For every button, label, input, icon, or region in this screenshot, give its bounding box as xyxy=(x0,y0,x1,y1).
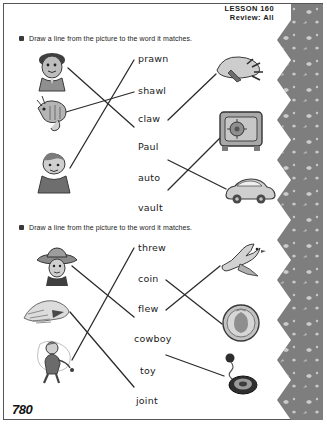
hand-joint-picture[interactable] xyxy=(22,292,72,328)
match-line-toy xyxy=(166,355,224,376)
word-coin[interactable]: coin xyxy=(138,273,159,284)
instruction-row-1: Draw a line from the picture to the word… xyxy=(19,35,192,42)
word-joint[interactable]: joint xyxy=(136,395,158,406)
bird-flew-picture[interactable] xyxy=(216,242,268,286)
word-threw[interactable]: threw xyxy=(138,242,166,253)
square-bullet-icon xyxy=(19,36,24,41)
auto-car-picture[interactable] xyxy=(222,174,276,204)
worksheet-page: LESSON 160 Review: All Draw a line from … xyxy=(0,0,327,424)
instruction-text-2: Draw a line from the picture to the word… xyxy=(29,224,192,231)
prawn-picture[interactable] xyxy=(32,94,72,132)
match-line-claw xyxy=(168,74,216,120)
claw-picture[interactable] xyxy=(213,52,269,86)
word-flew[interactable]: flew xyxy=(138,303,158,314)
word-toy[interactable]: toy xyxy=(140,365,156,376)
yoyo-toy-picture[interactable] xyxy=(220,352,266,396)
boy-face-picture[interactable] xyxy=(30,50,74,92)
thrower-picture[interactable] xyxy=(32,338,80,384)
word-claw[interactable]: claw xyxy=(138,113,160,124)
lesson-header: LESSON 160 Review: All xyxy=(225,4,274,23)
child-shawl-picture[interactable] xyxy=(34,150,74,194)
match-line-vault xyxy=(168,136,222,190)
match-line-cowboy xyxy=(72,266,134,317)
match-line-prawn-shawl xyxy=(66,92,134,112)
exercise-2: threw coin flew cowboy toy joint xyxy=(8,240,278,395)
instruction-text-1: Draw a line from the picture to the word… xyxy=(29,35,192,42)
decorative-zigzag-band xyxy=(277,4,323,420)
word-shawl[interactable]: shawl xyxy=(138,85,166,96)
coin-picture[interactable] xyxy=(220,302,262,344)
cowboy-picture[interactable] xyxy=(34,244,80,286)
exercise-1: prawn shawl claw Paul auto vault xyxy=(8,50,278,205)
word-prawn[interactable]: prawn xyxy=(138,53,169,64)
lesson-number-label: LESSON 160 xyxy=(225,4,274,13)
match-line-threw xyxy=(72,248,134,360)
match-line-auto xyxy=(168,160,226,189)
word-paul[interactable]: Paul xyxy=(138,141,159,152)
lesson-review-label: Review: All xyxy=(225,13,274,22)
match-line-child-prawn xyxy=(70,60,134,168)
vault-picture[interactable] xyxy=(216,108,266,152)
page-number: 780 xyxy=(12,402,32,417)
word-vault[interactable]: vault xyxy=(138,202,163,213)
word-cowboy[interactable]: cowboy xyxy=(134,333,171,344)
match-line-flew xyxy=(166,266,220,310)
word-auto[interactable]: auto xyxy=(138,172,160,183)
square-bullet-icon-2 xyxy=(19,225,24,230)
instruction-row-2: Draw a line from the picture to the word… xyxy=(19,224,192,231)
